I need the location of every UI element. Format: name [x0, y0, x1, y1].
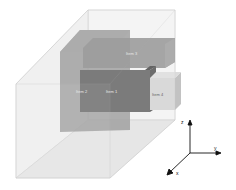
item-4-label: Item 4: [152, 92, 164, 97]
packing-diagram: Item 2 Item 1 Item 3 Item 4 z y x: [0, 0, 236, 190]
item-3-label: Item 3: [126, 51, 138, 56]
z-axis-label: z: [181, 119, 184, 125]
z-arrow-icon: [188, 120, 192, 125]
y-axis-label: y: [214, 145, 217, 151]
axis-indicator: [167, 120, 221, 175]
x-axis-label: x: [176, 170, 179, 176]
x-axis: [170, 153, 190, 172]
item-1-label: Item 1: [106, 89, 118, 94]
y-arrow-icon: [216, 151, 221, 155]
item-2-label: Item 2: [76, 89, 88, 94]
